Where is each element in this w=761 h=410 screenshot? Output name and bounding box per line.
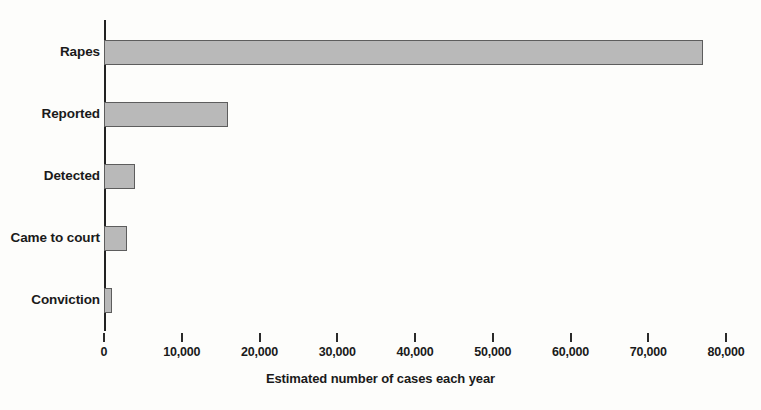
x-tick-label: 50,000: [474, 345, 511, 359]
category-label-2-text: Detected: [44, 168, 100, 183]
x-tick-label: 60,000: [552, 345, 589, 359]
bar-row: [104, 82, 726, 144]
x-tick-mark: [103, 333, 105, 342]
x-axis-title: Estimated number of cases each year: [0, 371, 761, 386]
x-tick-mark: [414, 333, 416, 342]
x-tick-label: 70,000: [630, 345, 667, 359]
x-tick-label: 20,000: [241, 345, 278, 359]
x-tick-label: 80,000: [707, 345, 744, 359]
category-label-4-text: Conviction: [31, 292, 100, 307]
x-tick-label: 40,000: [396, 345, 433, 359]
bar-detected: [104, 164, 135, 189]
bar-came-to-court: [104, 226, 127, 251]
bar-conviction: [104, 288, 112, 313]
x-tick-mark: [725, 333, 727, 342]
bar-row: [104, 268, 726, 330]
category-label-3-text: Came to court: [11, 230, 100, 245]
bar-chart-figure: Rapes Reported Detected Came to court Co…: [0, 0, 761, 410]
bar-rapes: [104, 40, 703, 65]
bar-row: [104, 20, 726, 82]
x-tick-label: 0: [101, 345, 108, 359]
x-tick-mark: [259, 333, 261, 342]
category-label-1-text: Reported: [42, 106, 100, 121]
x-tick-mark: [181, 333, 183, 342]
x-tick-mark: [647, 333, 649, 342]
x-tick-label: 10,000: [163, 345, 200, 359]
plot-area: [104, 20, 726, 330]
category-label-0-text: Rapes: [60, 44, 100, 59]
x-tick-mark: [492, 333, 494, 342]
bar-reported: [104, 102, 228, 127]
x-tick-mark: [570, 333, 572, 342]
x-tick-label: 30,000: [319, 345, 356, 359]
bar-row: [104, 206, 726, 268]
bar-row: [104, 144, 726, 206]
x-tick-mark: [336, 333, 338, 342]
